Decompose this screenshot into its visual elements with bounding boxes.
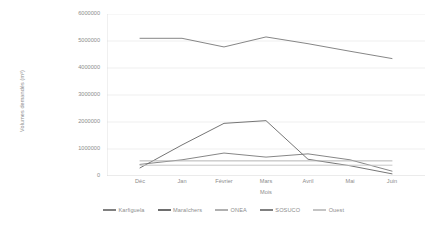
legend-swatch-icon (158, 209, 171, 210)
y-axis-tick-labels: 6000000500000040000003000000200000010000… (34, 0, 100, 238)
y-axis-tick-label: 4000000 (34, 65, 100, 71)
y-axis-title: Volumes demandés (m³) (19, 41, 25, 161)
legend-label: Karfiguela (118, 207, 144, 213)
legend-label: SOSUCO (275, 207, 300, 213)
y-axis-tick-label: 6000000 (34, 11, 100, 17)
legend-label: ONEA (231, 207, 247, 213)
x-axis-tick-label: Mars (260, 178, 272, 184)
plot-svg (107, 14, 425, 176)
legend-label: Ouest (329, 207, 344, 213)
x-axis-tick-label: Février (215, 178, 232, 184)
legend-swatch-icon (215, 209, 228, 210)
x-axis-tick-label: Avril (303, 178, 314, 184)
plot-area (107, 14, 425, 176)
x-axis-tick-label: Mai (345, 178, 354, 184)
y-axis-tick-label: 2000000 (34, 119, 100, 125)
y-axis-tick-label: 5000000 (34, 38, 100, 44)
line-chart: Volumes demandés (m³) 600000050000004000… (0, 0, 447, 238)
legend-item[interactable]: Maraîchers (158, 207, 202, 213)
x-axis-title: Mois (107, 189, 425, 195)
legend-label: Maraîchers (173, 207, 202, 213)
legend-item[interactable]: Ouest (313, 207, 344, 213)
y-axis-tick-label: 0 (34, 173, 100, 179)
series-line-karfiguela (140, 153, 392, 171)
y-axis-tick-label: 1000000 (34, 146, 100, 152)
x-axis-tick-label: Juin (387, 178, 397, 184)
chart-legend: KarfiguelaMaraîchersONEASOSUCOOuest (0, 207, 447, 213)
legend-item[interactable]: Karfiguela (103, 207, 145, 213)
series-line-sosuco (140, 37, 392, 59)
legend-swatch-icon (260, 209, 273, 210)
series-line-mara-chers (140, 121, 392, 174)
x-axis-tick-label: Jan (177, 178, 186, 184)
legend-item[interactable]: ONEA (215, 207, 247, 213)
y-axis-tick-label: 3000000 (34, 92, 100, 98)
legend-swatch-icon (103, 209, 116, 210)
legend-item[interactable]: SOSUCO (260, 207, 300, 213)
x-axis-tick-label: Déc (135, 178, 145, 184)
legend-swatch-icon (313, 209, 326, 210)
